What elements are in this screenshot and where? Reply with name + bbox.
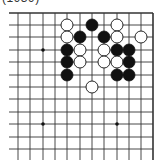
white-stone — [61, 31, 73, 43]
star-point — [41, 48, 45, 52]
white-stone — [61, 19, 73, 31]
white-stone — [111, 31, 123, 43]
white-stone — [74, 44, 86, 56]
star-point — [41, 122, 45, 126]
white-stone — [135, 31, 147, 43]
white-stone — [86, 81, 98, 93]
black-stone — [86, 19, 98, 31]
black-stone — [61, 56, 73, 68]
black-stone — [61, 69, 73, 81]
white-stone — [111, 19, 123, 31]
white-stone — [74, 56, 86, 68]
black-stone — [123, 44, 135, 56]
black-stone — [111, 69, 123, 81]
black-stone — [111, 44, 123, 56]
white-stone — [111, 56, 123, 68]
black-stone — [61, 44, 73, 56]
star-point — [115, 122, 119, 126]
black-stone — [74, 31, 86, 43]
black-stone — [98, 31, 110, 43]
black-stone — [123, 56, 135, 68]
black-stone — [123, 69, 135, 81]
white-stone — [98, 56, 110, 68]
white-stone — [98, 44, 110, 56]
go-board — [0, 0, 162, 164]
